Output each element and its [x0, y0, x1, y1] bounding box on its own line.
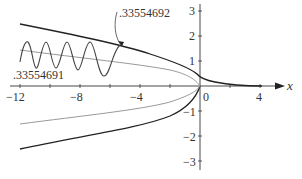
- y-tick-label: −3: [183, 155, 196, 169]
- x-axis-arrow-icon: [275, 83, 285, 90]
- x-tick-label: −4: [130, 90, 143, 104]
- lower-gray-curve: [20, 86, 200, 124]
- plot-canvas: x −12 −8 −4 0 4 3 2 1 −1 −2 −3 .33554692…: [0, 0, 302, 179]
- x-tick-label: 4: [256, 90, 262, 104]
- annotation-top: .33554692: [119, 6, 170, 20]
- x-tick-label: 0: [203, 90, 209, 104]
- lower-dark-curve: [20, 86, 200, 149]
- y-tick-label: 1: [189, 54, 195, 68]
- y-tick-label: 3: [189, 4, 195, 18]
- x-tick-label: −12: [6, 90, 25, 104]
- x-axis-label: x: [286, 78, 293, 93]
- annotation-bottom: .33554691: [13, 68, 64, 82]
- y-tick-label: 2: [189, 29, 195, 43]
- x-tick-label: −8: [70, 90, 83, 104]
- y-tick-label: −2: [183, 130, 196, 144]
